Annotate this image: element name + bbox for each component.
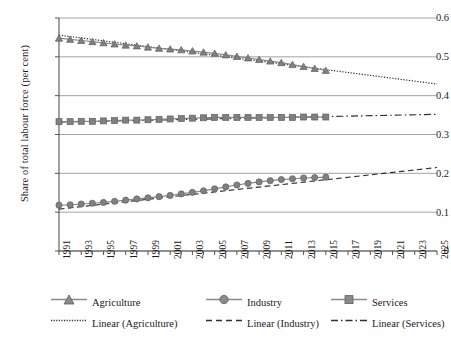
data-point-services bbox=[123, 117, 129, 123]
legend-label-industry: Industry bbox=[247, 298, 282, 309]
legend-label-linear-industry: Linear (Industry) bbox=[247, 319, 319, 330]
triangle-marker-icon bbox=[50, 293, 88, 306]
data-point-services bbox=[312, 114, 318, 120]
data-point-services bbox=[267, 114, 273, 120]
legend-label-linear-agriculture: Linear (Agriculture) bbox=[92, 319, 177, 330]
data-point-services bbox=[112, 118, 118, 124]
data-point-industry bbox=[78, 201, 84, 207]
legend-label-linear-services: Linear (Services) bbox=[372, 319, 445, 330]
data-point-industry bbox=[156, 194, 162, 200]
x-tick-label-2023: 2023 bbox=[419, 240, 429, 259]
data-point-industry bbox=[134, 196, 140, 202]
legend-label-agriculture: Agriculture bbox=[92, 298, 140, 309]
data-point-services bbox=[167, 116, 173, 122]
chart-legend: Agriculture Industry Services Linear (Ag… bbox=[0, 291, 449, 337]
data-point-industry bbox=[212, 186, 218, 192]
data-point-services bbox=[212, 114, 218, 120]
data-point-industry bbox=[245, 180, 251, 186]
x-tick-label-1991: 1991 bbox=[63, 240, 73, 259]
data-point-services bbox=[245, 114, 251, 120]
data-point-services bbox=[234, 114, 240, 120]
x-tick-label-2001: 2001 bbox=[174, 240, 184, 259]
x-tick-label-1993: 1993 bbox=[85, 240, 95, 259]
data-point-services bbox=[145, 117, 151, 123]
x-tick-label-2017: 2017 bbox=[352, 240, 362, 259]
data-point-services bbox=[67, 119, 73, 125]
data-point-services bbox=[256, 114, 262, 120]
dashed-line-icon bbox=[205, 314, 243, 327]
dotted-line-icon bbox=[50, 314, 88, 327]
x-tick-label-2005: 2005 bbox=[219, 240, 229, 259]
x-tick-label-2007: 2007 bbox=[241, 240, 251, 259]
data-point-industry bbox=[123, 197, 129, 203]
legend-label-services: Services bbox=[372, 298, 408, 309]
data-point-industry bbox=[234, 182, 240, 188]
x-tick-label-1997: 1997 bbox=[130, 240, 140, 259]
dash-dot-line-icon bbox=[330, 314, 368, 327]
data-point-services bbox=[201, 115, 207, 121]
data-point-services bbox=[100, 118, 106, 124]
x-tick-label-2021: 2021 bbox=[397, 240, 407, 259]
data-point-industry bbox=[189, 189, 195, 195]
data-point-services bbox=[278, 114, 284, 120]
x-tick-label-1995: 1995 bbox=[107, 240, 117, 259]
data-point-industry bbox=[256, 179, 262, 185]
data-point-services bbox=[89, 118, 95, 124]
data-point-industry bbox=[67, 202, 73, 208]
data-point-industry bbox=[167, 192, 173, 198]
data-point-industry bbox=[100, 199, 106, 205]
x-tick-label-2011: 2011 bbox=[285, 240, 295, 259]
data-point-services bbox=[323, 114, 329, 120]
data-point-industry bbox=[145, 195, 151, 201]
circle-marker-icon bbox=[205, 293, 243, 306]
x-tick-label-2013: 2013 bbox=[308, 240, 318, 259]
data-point-industry bbox=[289, 176, 295, 182]
data-point-industry bbox=[300, 175, 306, 181]
data-point-services bbox=[56, 119, 62, 125]
data-point-industry bbox=[278, 176, 284, 182]
data-point-services bbox=[223, 114, 229, 120]
x-tick-label-2009: 2009 bbox=[263, 240, 273, 259]
data-point-industry bbox=[89, 200, 95, 206]
data-point-services bbox=[134, 117, 140, 123]
data-point-industry bbox=[323, 174, 329, 180]
data-point-industry bbox=[111, 198, 117, 204]
data-point-industry bbox=[267, 178, 273, 184]
x-tick-label-2003: 2003 bbox=[196, 240, 206, 259]
square-marker-icon bbox=[330, 293, 368, 306]
data-point-industry bbox=[200, 188, 206, 194]
data-point-services bbox=[189, 115, 195, 121]
data-point-services bbox=[78, 118, 84, 124]
data-point-industry bbox=[56, 202, 62, 208]
data-point-services bbox=[289, 114, 295, 120]
data-point-industry bbox=[178, 191, 184, 197]
data-point-industry bbox=[312, 175, 318, 181]
data-point-services bbox=[156, 116, 162, 122]
data-point-services bbox=[178, 116, 184, 122]
data-point-services bbox=[301, 114, 307, 120]
x-tick-label-2015: 2015 bbox=[330, 240, 340, 259]
x-tick-label-2025: 2025 bbox=[441, 240, 451, 259]
data-point-industry bbox=[223, 184, 229, 190]
x-tick-label-2019: 2019 bbox=[374, 240, 384, 259]
x-tick-label-1999: 1999 bbox=[152, 240, 162, 259]
